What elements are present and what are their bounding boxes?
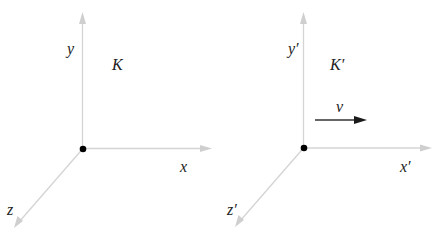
y-axis-arrowhead-icon: [79, 12, 86, 24]
x-axis-arrowhead-icon: [200, 145, 212, 152]
z-prime-axis: [240, 148, 304, 221]
z-axis-arrowhead-icon: [14, 216, 23, 228]
origin-point-prime: [301, 145, 308, 152]
y-axis-label: y: [65, 40, 75, 58]
x-axis-label: x: [179, 158, 187, 175]
frame-label: K: [111, 56, 124, 73]
frame-k: y K x z: [6, 12, 212, 228]
x-prime-axis-arrowhead-icon: [420, 145, 432, 152]
origin-point: [80, 146, 87, 153]
frame-prime-label: K′: [329, 56, 345, 73]
velocity-arrowhead-icon: [354, 116, 367, 124]
y-prime-axis-label: y′: [286, 40, 299, 58]
x-prime-axis-label: x′: [399, 158, 411, 175]
z-axis: [19, 149, 83, 222]
z-prime-axis-label: z′: [226, 201, 237, 218]
y-prime-axis-arrowhead-icon: [300, 12, 307, 24]
z-axis-label: z: [6, 201, 14, 218]
velocity-label: v: [336, 98, 344, 115]
frame-k-prime: y′ K′ v x′ z′: [226, 12, 432, 227]
reference-frames-diagram: y K x z y′ K′ v x′ z′: [0, 0, 441, 235]
